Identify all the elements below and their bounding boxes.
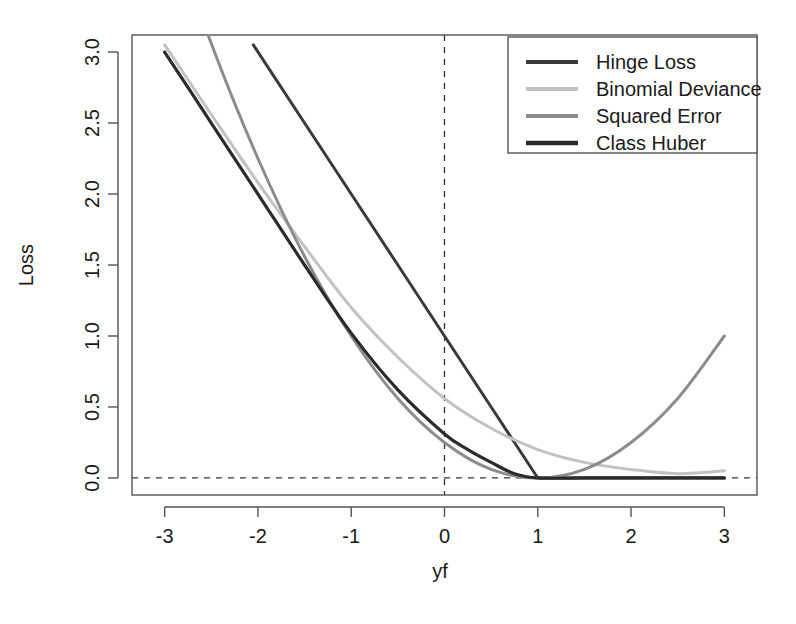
chart-figure: -3-2-10123 0.00.51.01.52.02.53.0 yf Loss… (0, 0, 796, 624)
y-tick-label: 2.0 (81, 180, 103, 208)
x-tick-label: 3 (719, 525, 730, 547)
x-tick-label: 2 (626, 525, 637, 547)
legend: Hinge LossBinomial DevianceSquared Error… (508, 37, 762, 154)
x-tick-label: -1 (342, 525, 360, 547)
y-tick-label: 0.0 (81, 464, 103, 492)
y-axis-title: Loss (15, 244, 37, 286)
x-tick-label: -3 (156, 525, 174, 547)
loss-functions-plot: -3-2-10123 0.00.51.01.52.02.53.0 yf Loss… (0, 0, 796, 624)
x-tick-label: -2 (249, 525, 267, 547)
legend-label-squared-error: Squared Error (596, 105, 722, 127)
x-tick-label: 1 (532, 525, 543, 547)
legend-label-binomial-deviance: Binomial Deviance (596, 78, 762, 100)
y-tick-label: 2.5 (81, 109, 103, 137)
y-tick-label: 1.5 (81, 251, 103, 279)
y-tick-label: 3.0 (81, 38, 103, 66)
x-axis-title: yf (432, 560, 448, 582)
y-axis-ticks: 0.00.51.01.52.02.53.0 (81, 38, 118, 492)
x-tick-label: 0 (439, 525, 450, 547)
x-axis-ticks: -3-2-10123 (156, 507, 730, 547)
legend-label-class-huber: Class Huber (596, 132, 706, 154)
y-tick-label: 0.5 (81, 393, 103, 421)
legend-label-hinge-loss: Hinge Loss (596, 51, 696, 73)
y-tick-label: 1.0 (81, 322, 103, 350)
